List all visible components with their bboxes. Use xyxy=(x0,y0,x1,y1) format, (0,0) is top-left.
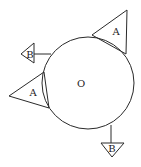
label-o: O xyxy=(77,78,85,89)
triangle-a-top-right xyxy=(92,10,127,54)
label-b-left: B xyxy=(26,49,33,60)
label-a-top-right: A xyxy=(111,26,120,37)
label-b-bottom: B xyxy=(108,143,115,154)
diagram-canvas: O A A B B xyxy=(0,0,141,167)
label-a-left: A xyxy=(28,87,37,98)
circle-o xyxy=(42,37,134,129)
